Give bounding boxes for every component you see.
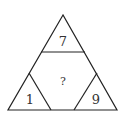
outer-triangle (8, 15, 117, 110)
center-question-mark: ? (60, 75, 66, 88)
bottom-right-number: 9 (92, 92, 100, 107)
bottom-left-number: 1 (26, 92, 34, 107)
triangle-puzzle-diagram: 7 ? 1 9 (0, 0, 126, 115)
top-number: 7 (59, 34, 67, 49)
